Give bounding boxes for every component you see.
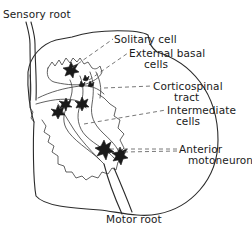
label-motor-root-text: Motor root [106,213,162,225]
label-motor-root: Motor root [106,214,162,225]
label-corticospinal-tract: Corticospinal tract [153,81,223,103]
label-external-line2: cells [129,59,205,70]
anterior-motoneurons-icon [95,140,128,165]
leader-anterior-2 [124,151,178,152]
sensory-root-inner [31,22,36,100]
label-intermediate-line2: cells [167,116,236,127]
label-intermediate-cells: Intermediate cells [167,105,236,127]
label-sensory-root-text: Sensory root [3,8,71,20]
label-solitary-cell: Solitary cell [114,34,177,45]
label-solitary-cell-text: Solitary cell [114,33,177,45]
label-anterior-line2: motoneurons [179,155,252,166]
motor-root [104,164,122,214]
leader-cortico [104,86,152,88]
label-external-basal-cells: External basal cells [129,48,205,70]
leader-external [89,53,128,80]
motor-root-2 [114,168,132,212]
label-anterior-motoneurons: Anterior motoneurons [179,144,252,166]
leader-intermediate [84,110,166,124]
leader-solitary [72,39,113,68]
solitary-cell-icon [63,62,79,78]
label-sensory-root: Sensory root [3,9,71,20]
label-cortico-line2: tract [153,92,223,103]
